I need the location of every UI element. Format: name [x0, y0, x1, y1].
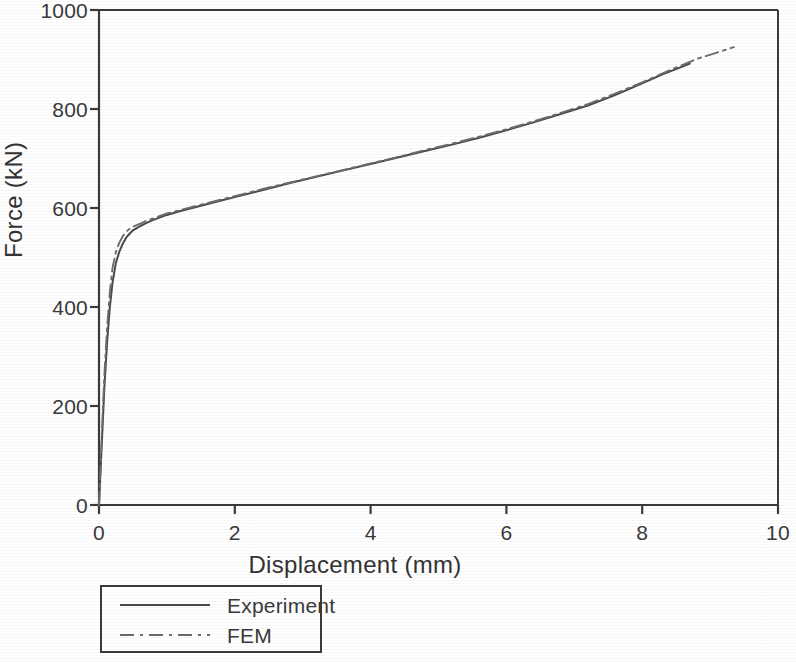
y-tick-label: 400: [10, 297, 88, 318]
series-line-fem: [99, 47, 734, 505]
legend-label: Experiment: [227, 594, 335, 618]
y-axis-title: Force (kN): [0, 142, 28, 258]
legend-item-experiment: Experiment: [102, 590, 320, 620]
legend: Experiment FEM: [100, 585, 322, 653]
x-tick-label: 6: [500, 522, 512, 543]
x-tick-label: 0: [93, 522, 105, 543]
y-tick-label: 200: [10, 396, 88, 417]
x-tick-label: 8: [636, 522, 648, 543]
y-tick-label: 1000: [10, 0, 88, 21]
x-axis-title: Displacement (mm): [248, 551, 461, 579]
y-tick-label: 800: [10, 99, 88, 120]
legend-line-sample-solid: [120, 604, 210, 606]
legend-item-fem: FEM: [102, 620, 320, 650]
y-tick-label: 0: [10, 495, 88, 516]
x-tick-label: 4: [365, 522, 377, 543]
axes-group: [90, 10, 778, 514]
x-tick-label: 10: [766, 522, 790, 543]
force-displacement-figure: 0 200 400 600 800 1000 0 2 4 6 8 10 Forc…: [0, 0, 796, 662]
series-group: [99, 47, 734, 505]
legend-line-sample-dashdot: [120, 634, 210, 636]
x-tick-label: 2: [229, 522, 241, 543]
legend-label: FEM: [227, 624, 272, 648]
series-line-experiment: [99, 63, 690, 505]
